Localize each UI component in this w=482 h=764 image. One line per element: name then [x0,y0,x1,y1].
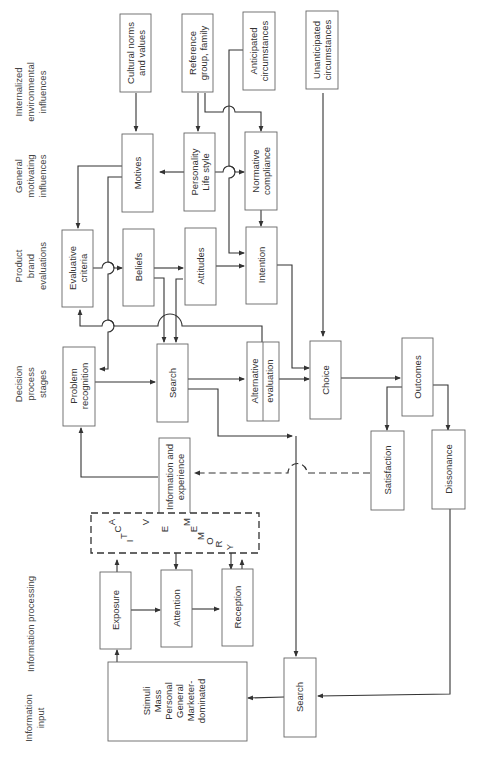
box-evaluative-criteria: Evaluative criteria [62,230,93,307]
box-alternative-evaluation: Alternative evaluation [247,342,279,421]
svg-text:evaluation: evaluation [264,359,275,402]
svg-text:Information and: Information and [164,444,175,510]
svg-text:M: M [181,518,192,526]
svg-text:Information: Information [23,694,34,742]
svg-text:criteria: criteria [78,253,89,282]
svg-text:Satisfaction: Satisfaction [382,445,393,494]
row-label-product: Product brand evaluations [13,242,48,290]
box-stimuli: Stimuli Mass Personal General Marketer- … [108,662,247,741]
box-cultural-norms: Cultural norms and values [120,14,151,92]
svg-text:evaluations: evaluations [37,242,48,290]
svg-text:Information processing: Information processing [25,576,36,672]
row-label-motivating: General motivating influences [13,154,48,197]
svg-text:Attitudes: Attitudes [195,247,206,284]
svg-text:Reference: Reference [187,31,198,75]
consumer-decision-process-diagram: Internalized environmental influences Ge… [0,0,482,764]
svg-text:Reception: Reception [232,586,243,629]
arrow-alternative-evaluative [80,310,262,342]
row-label-internalized: Internalized environmental influences [13,62,48,122]
svg-text:Anticipated: Anticipated [248,27,259,74]
box-personality: Personality Life style [184,133,215,211]
svg-text:R: R [213,540,224,547]
arrow-info-experience-problem [81,428,158,477]
row-label-decision: Decision process stages [13,366,48,402]
svg-text:brand: brand [25,254,36,278]
svg-text:Decision: Decision [13,366,24,402]
box-choice: Choice [310,341,341,419]
svg-text:dominated: dominated [196,679,207,723]
box-satisfaction: Satisfaction [371,431,404,510]
box-beliefs: Beliefs [123,229,154,306]
svg-text:Search: Search [167,368,178,398]
box-search-external: Search [284,658,316,737]
box-anticipated-circumstances: Anticipated circumstances [243,12,275,90]
arrow-search-stimuli [248,697,284,698]
box-problem-recognition: Problem recognition [63,347,95,426]
svg-text:Search: Search [294,682,305,712]
box-outcomes: Outcomes [402,338,433,416]
svg-text:Personality: Personality [189,148,200,195]
svg-text:circumstances: circumstances [322,19,333,80]
svg-text:Cultural norms: Cultural norms [125,22,136,84]
svg-text:Alternative: Alternative [249,359,260,404]
row-label-info-processing: Information processing [25,576,36,672]
svg-text:environmental: environmental [25,62,36,122]
box-motives: Motives [122,134,153,212]
svg-text:Attention: Attention [171,589,182,627]
svg-text:Evaluative: Evaluative [67,246,78,290]
box-unanticipated-circumstances: Unanticipated circumstances [306,11,338,89]
arrow-outcomes-dissonance [432,385,448,430]
arrow-motives-evaluative [78,166,122,228]
svg-text:Outcomes: Outcomes [412,355,423,399]
svg-text:E: E [159,526,170,532]
svg-text:E: E [188,526,199,532]
svg-text:I: I [124,540,135,543]
box-information-experience: Information and experience [159,438,190,517]
active-memory-box: A C T I V E M E M O R Y [91,513,259,553]
arrow-dissonance-search [318,508,450,696]
arrow-anticipated-intention [229,50,244,253]
svg-text:and values: and values [136,30,147,76]
svg-text:compliance: compliance [261,147,272,195]
box-reference-group: Reference group, family [182,14,213,92]
svg-text:motivating: motivating [25,154,36,197]
svg-text:V: V [140,518,151,525]
svg-text:group, family: group, family [198,26,209,81]
svg-text:Intention: Intention [256,247,267,283]
svg-text:A: A [106,518,117,525]
svg-text:influences: influences [37,154,48,197]
svg-text:General: General [174,684,185,718]
svg-text:recognition: recognition [79,363,90,409]
svg-text:Exposure: Exposure [110,590,121,630]
arrow-personality-normative [214,166,244,172]
svg-text:Problem: Problem [68,368,79,403]
arrow-beliefs-search [153,278,164,342]
box-exposure: Exposure [100,572,131,649]
box-search: Search [157,344,188,422]
arrow-attitudes-search [176,279,183,342]
svg-text:Beliefs: Beliefs [133,252,144,281]
box-normative-compliance: Normative compliance [245,132,277,210]
svg-text:experience: experience [175,454,186,500]
box-attitudes: Attitudes [185,228,216,305]
arrow-motives-problem [100,177,122,369]
arrow-evaluative-beliefs [93,262,122,268]
box-reception: Reception [222,569,253,646]
svg-text:Stimuli: Stimuli [141,687,152,716]
svg-text:process: process [25,367,36,401]
svg-text:Life style: Life style [200,153,211,191]
svg-text:Choice: Choice [320,365,331,395]
svg-text:C: C [112,525,123,532]
svg-text:Motives: Motives [132,156,143,189]
svg-text:Y: Y [224,543,235,550]
svg-text:circumstances: circumstances [259,20,270,81]
svg-text:Dissonance: Dissonance [443,444,454,494]
box-attention: Attention [161,570,192,647]
svg-text:T: T [118,533,129,539]
svg-text:Normative: Normative [250,149,261,192]
svg-text:influences: influences [37,70,48,113]
arrow-intention-choice [277,265,309,368]
svg-text:Mass: Mass [152,689,163,712]
arrow-reference-normative [205,93,261,131]
box-dissonance: Dissonance [432,430,465,509]
